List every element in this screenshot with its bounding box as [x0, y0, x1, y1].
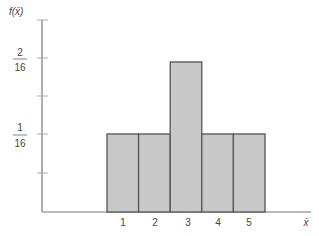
bar-3 — [170, 62, 202, 212]
bar-5 — [233, 134, 265, 212]
bar-2 — [139, 134, 171, 212]
y-tick-label-2-den: 16 — [14, 62, 26, 73]
bar-1 — [107, 134, 139, 212]
x-tick-label-4: 4 — [215, 217, 221, 228]
x-axis-label: x̄ — [303, 217, 310, 228]
histogram-chart: f(x̄) 2 16 1 16 1 2 3 4 5 x̄ — [0, 0, 319, 236]
x-tick-label-3: 3 — [185, 217, 191, 228]
y-tick-label-1-num: 1 — [17, 122, 23, 133]
y-axis-label: f(x̄) — [9, 6, 23, 17]
x-tick-label-2: 2 — [152, 217, 158, 228]
x-tick-label-5: 5 — [246, 217, 252, 228]
y-tick-label-1-den: 16 — [14, 138, 26, 149]
bar-4 — [202, 134, 234, 212]
x-tick-label-1: 1 — [120, 217, 126, 228]
bars — [107, 62, 265, 212]
y-tick-label-2-num: 2 — [17, 47, 23, 58]
